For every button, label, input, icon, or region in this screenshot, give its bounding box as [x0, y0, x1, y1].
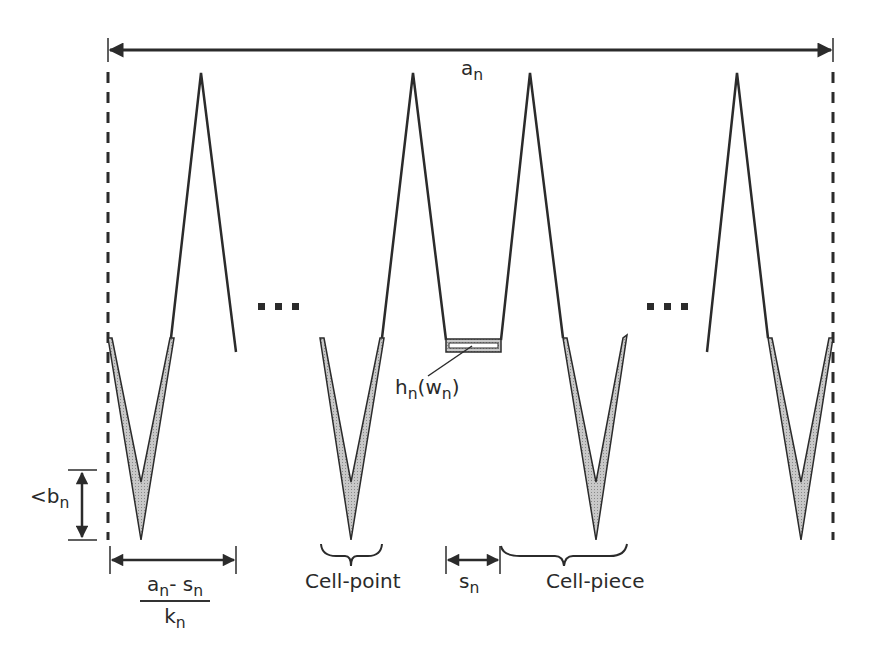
- box-label: hn(wn): [395, 377, 459, 398]
- ellipsis-left: [258, 303, 299, 310]
- cell-point-brace: [321, 544, 382, 566]
- cell-point-shading: [768, 338, 833, 540]
- cell-piece-brace: [501, 544, 627, 566]
- gap-dimension: [446, 546, 500, 574]
- height-bound-label: <bn: [30, 486, 69, 507]
- cell-width-dimension: [110, 546, 236, 574]
- cell-width-label: an- sn kn: [140, 572, 210, 628]
- cell-1: [108, 73, 236, 540]
- cell-width-numerator: an- sn: [140, 572, 210, 602]
- cell-point-shading: [320, 338, 384, 540]
- height-bound-dimension: [68, 470, 97, 540]
- cell-width-denominator: kn: [140, 602, 210, 628]
- cell-point-shading: [563, 335, 627, 540]
- cell-2: [320, 73, 446, 540]
- cell-4: [707, 73, 833, 540]
- cell-piece-label: Cell-piece: [546, 571, 644, 591]
- cell-point-shading: [108, 338, 174, 540]
- total-width-label: an: [461, 58, 483, 79]
- cell-diagram: [0, 0, 874, 658]
- gap-box: [428, 339, 501, 376]
- gap-label: sn: [459, 571, 479, 592]
- cell-3: [501, 73, 627, 540]
- cell-point-label: Cell-point: [305, 571, 401, 591]
- ellipsis-right: [647, 303, 688, 310]
